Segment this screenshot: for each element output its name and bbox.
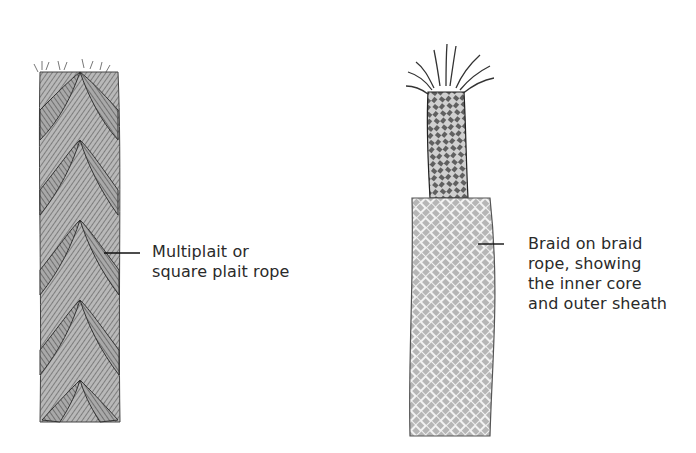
braid-label-line-1: Braid on braid [528, 234, 667, 254]
multiplait-label-line-1: Multiplait or [152, 242, 290, 262]
braid-label-line-2: rope, showing [528, 254, 667, 274]
multiplait-label-line-2: square plait rope [152, 262, 290, 282]
rope-illustrations [0, 0, 696, 453]
multiplait-label: Multiplait or square plait rope [152, 242, 290, 282]
braid-label-line-3: the inner core [528, 274, 667, 294]
braid-label-line-4: and outer sheath [528, 294, 667, 314]
braid-on-braid-rope-drawing [406, 44, 504, 436]
multiplait-rope-drawing [34, 59, 140, 422]
braid-on-braid-label: Braid on braid rope, showing the inner c… [528, 234, 667, 314]
